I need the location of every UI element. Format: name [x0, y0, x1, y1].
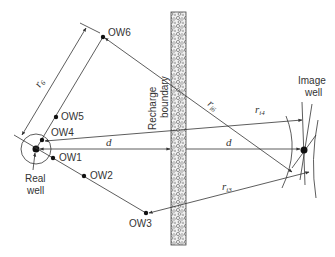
image-well-label-line1: Image	[298, 75, 326, 86]
recharge-boundary-strip	[171, 12, 186, 245]
ow6-label: OW6	[108, 27, 131, 38]
image-well-arc-left	[282, 116, 292, 188]
r6-tick-top	[80, 23, 100, 33]
real-well-pointer	[33, 153, 35, 170]
d-right-label: d	[226, 136, 232, 148]
d-left-label: d	[106, 136, 112, 148]
ri6-line	[105, 38, 292, 172]
r6-label: r6	[32, 76, 48, 90]
ri3-label: ri3	[222, 180, 232, 194]
ow2-label: OW2	[90, 170, 113, 181]
ow4-label: OW4	[51, 127, 74, 138]
ow3-label: OW3	[129, 218, 152, 229]
observation-well-ow2: OW2	[82, 170, 113, 181]
real-well-label-line2: well	[26, 185, 44, 196]
ow1-label: OW1	[59, 152, 82, 163]
ow5-label: OW5	[61, 111, 84, 122]
ow1-marker	[51, 156, 55, 160]
ow3-marker	[144, 211, 148, 215]
boundary-label-line2: boundary	[159, 76, 170, 118]
ow4-marker	[40, 138, 44, 142]
observation-well-ow3: OW3	[129, 211, 152, 229]
ow5-marker	[54, 115, 58, 119]
image-well-radial-2	[300, 104, 312, 180]
image-well-label-line2: well	[304, 87, 322, 98]
ri4-label: ri4	[255, 103, 265, 117]
observation-well-ow1: OW1	[51, 152, 82, 163]
image-well-radial-1	[302, 102, 305, 185]
ow2-marker	[82, 174, 86, 178]
recharge-boundary-diagram: Recharge boundary Real well r6 ri6 ri4 d…	[0, 0, 335, 257]
ow6-marker	[101, 35, 105, 39]
image-well-marker	[301, 147, 308, 154]
image-well-arc-right	[313, 120, 318, 198]
observation-well-ow5: OW5	[54, 111, 84, 122]
observation-well-ow6: OW6	[101, 27, 131, 39]
real-well-label-line1: Real	[25, 173, 46, 184]
boundary-label-line1: Recharge	[147, 86, 158, 130]
